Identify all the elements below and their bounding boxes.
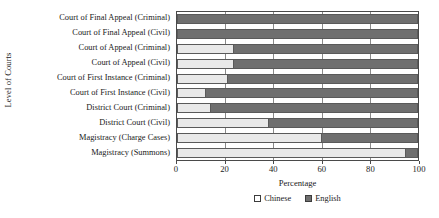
bar-segment-english (206, 88, 418, 98)
bar-segment-english (234, 44, 418, 54)
bar-row (177, 56, 418, 71)
stacked-bar (177, 148, 418, 158)
bar-row (177, 116, 418, 131)
stacked-bar (177, 44, 418, 54)
y-tick-label: Court of Final Appeal (Criminal) (16, 11, 174, 26)
y-tick-label: Magistracy (Charge Cases) (16, 131, 174, 146)
bar-segment-chinese (177, 118, 269, 128)
y-tick-label: Court of Appeal (Civil) (16, 56, 174, 71)
bar-row (177, 101, 418, 116)
y-tick-label: District Court (Civil) (16, 116, 174, 131)
y-axis-tick-labels: Court of Final Appeal (Criminal)Court of… (16, 11, 174, 161)
legend-label: Chinese (264, 194, 291, 203)
stacked-bar (177, 118, 418, 128)
bar-segment-english (228, 74, 418, 84)
stacked-bar (177, 14, 418, 24)
bar-segment-chinese (177, 44, 234, 54)
bar-segment-chinese (177, 59, 234, 69)
stacked-bar (177, 103, 418, 113)
legend-swatch-icon (305, 195, 312, 202)
stacked-bar (177, 59, 418, 69)
bar-series-container (177, 12, 418, 160)
stacked-bar (177, 133, 418, 143)
bar-segment-chinese (177, 133, 322, 143)
x-tick-label: 60 (318, 165, 327, 174)
bar-row (177, 86, 418, 101)
bar-row (177, 130, 418, 145)
bar-segment-chinese (177, 148, 406, 158)
bar-segment-english (322, 133, 418, 143)
bar-segment-english (177, 29, 418, 39)
bar-segment-chinese (177, 74, 228, 84)
y-tick-label: Magistracy (Summons) (16, 146, 174, 161)
bar-segment-english (269, 118, 418, 128)
y-tick-label: District Court (Criminal) (16, 101, 174, 116)
bar-row (177, 42, 418, 57)
y-axis-title: Level of Courts (0, 0, 16, 160)
y-axis-title-text: Level of Courts (3, 53, 13, 108)
y-tick-label: Court of First Instance (Criminal) (16, 71, 174, 86)
bar-segment-english (177, 14, 418, 24)
legend-item-chinese[interactable]: Chinese (254, 194, 291, 203)
x-tick-label: 100 (413, 165, 426, 174)
bar-segment-english (234, 59, 418, 69)
x-tick-label: 20 (220, 165, 229, 174)
bar-segment-english (406, 148, 418, 158)
y-tick-label: Court of First Instance (Civil) (16, 86, 174, 101)
legend-swatch-icon (254, 195, 261, 202)
stacked-bar (177, 88, 418, 98)
bar-row (177, 27, 418, 42)
bar-row (177, 145, 418, 160)
stacked-bar (177, 74, 418, 84)
bar-row (177, 12, 418, 27)
plot-area (176, 11, 419, 161)
stacked-bar-chart: Level of Courts Court of Final Appeal (C… (0, 0, 439, 218)
bar-segment-chinese (177, 103, 211, 113)
y-tick-label: Court of Final Appeal (Civil) (16, 26, 174, 41)
legend-item-english[interactable]: English (305, 194, 341, 203)
legend-label: English (315, 194, 341, 203)
y-tick-label: Court of Appeal (Criminal) (16, 41, 174, 56)
x-tick-label: 40 (269, 165, 278, 174)
legend: ChineseEnglish (176, 194, 419, 203)
bar-segment-english (211, 103, 418, 113)
bar-segment-chinese (177, 88, 206, 98)
bar-row (177, 71, 418, 86)
x-tick-label: 80 (366, 165, 375, 174)
x-axis-tick-labels: 020406080100 (176, 165, 419, 177)
stacked-bar (177, 29, 418, 39)
x-axis-title: Percentage (176, 178, 419, 188)
x-tick-label: 0 (174, 165, 178, 174)
